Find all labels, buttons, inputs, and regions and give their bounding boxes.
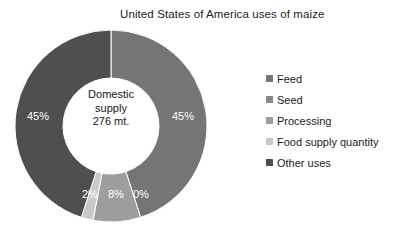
- slice-label-feed: 45%: [172, 110, 194, 122]
- center-label-line2: supply: [63, 102, 159, 116]
- center-label-line3: 276 mt.: [63, 115, 159, 129]
- center-total-label: Domestic supply 276 mt.: [63, 88, 159, 129]
- legend-swatch-icon: [266, 138, 273, 145]
- legend-item[interactable]: Processing: [266, 110, 404, 131]
- slice-label-other-uses: 45%: [27, 110, 49, 122]
- legend-swatch-icon: [266, 75, 273, 82]
- slice-label-seed: 0%: [133, 188, 149, 200]
- slice-label-food-supply-quantity: 2%: [82, 188, 98, 200]
- legend-item-label: Processing: [277, 115, 331, 127]
- legend-swatch-icon: [266, 96, 273, 103]
- legend-item-label: Other uses: [277, 157, 331, 169]
- donut-chart-figure: United States of America uses of maize D…: [0, 0, 405, 230]
- legend-item[interactable]: Food supply quantity: [266, 131, 404, 152]
- legend-item-label: Feed: [277, 73, 302, 85]
- legend-swatch-icon: [266, 159, 273, 166]
- legend-swatch-icon: [266, 117, 273, 124]
- legend-item-label: Seed: [277, 94, 303, 106]
- legend-item-label: Food supply quantity: [277, 136, 379, 148]
- center-label-line1: Domestic: [63, 88, 159, 102]
- legend-item[interactable]: Seed: [266, 89, 404, 110]
- chart-legend: FeedSeedProcessingFood supply quantityOt…: [266, 68, 404, 173]
- legend-item[interactable]: Other uses: [266, 152, 404, 173]
- slice-label-processing: 8%: [108, 188, 124, 200]
- legend-item[interactable]: Feed: [266, 68, 404, 89]
